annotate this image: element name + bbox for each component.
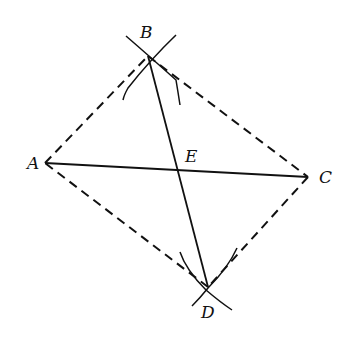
segment-ab [45,56,148,163]
label-a: A [25,153,39,173]
segment-bc [148,56,308,177]
label-b: B [139,22,153,42]
label-d: D [200,302,215,322]
label-c: C [319,167,332,187]
segment-da [45,163,208,287]
arc-b-from-c [123,35,176,100]
rhombus-construction-diagram: A B C D E [0,0,348,341]
label-e: E [184,146,198,166]
